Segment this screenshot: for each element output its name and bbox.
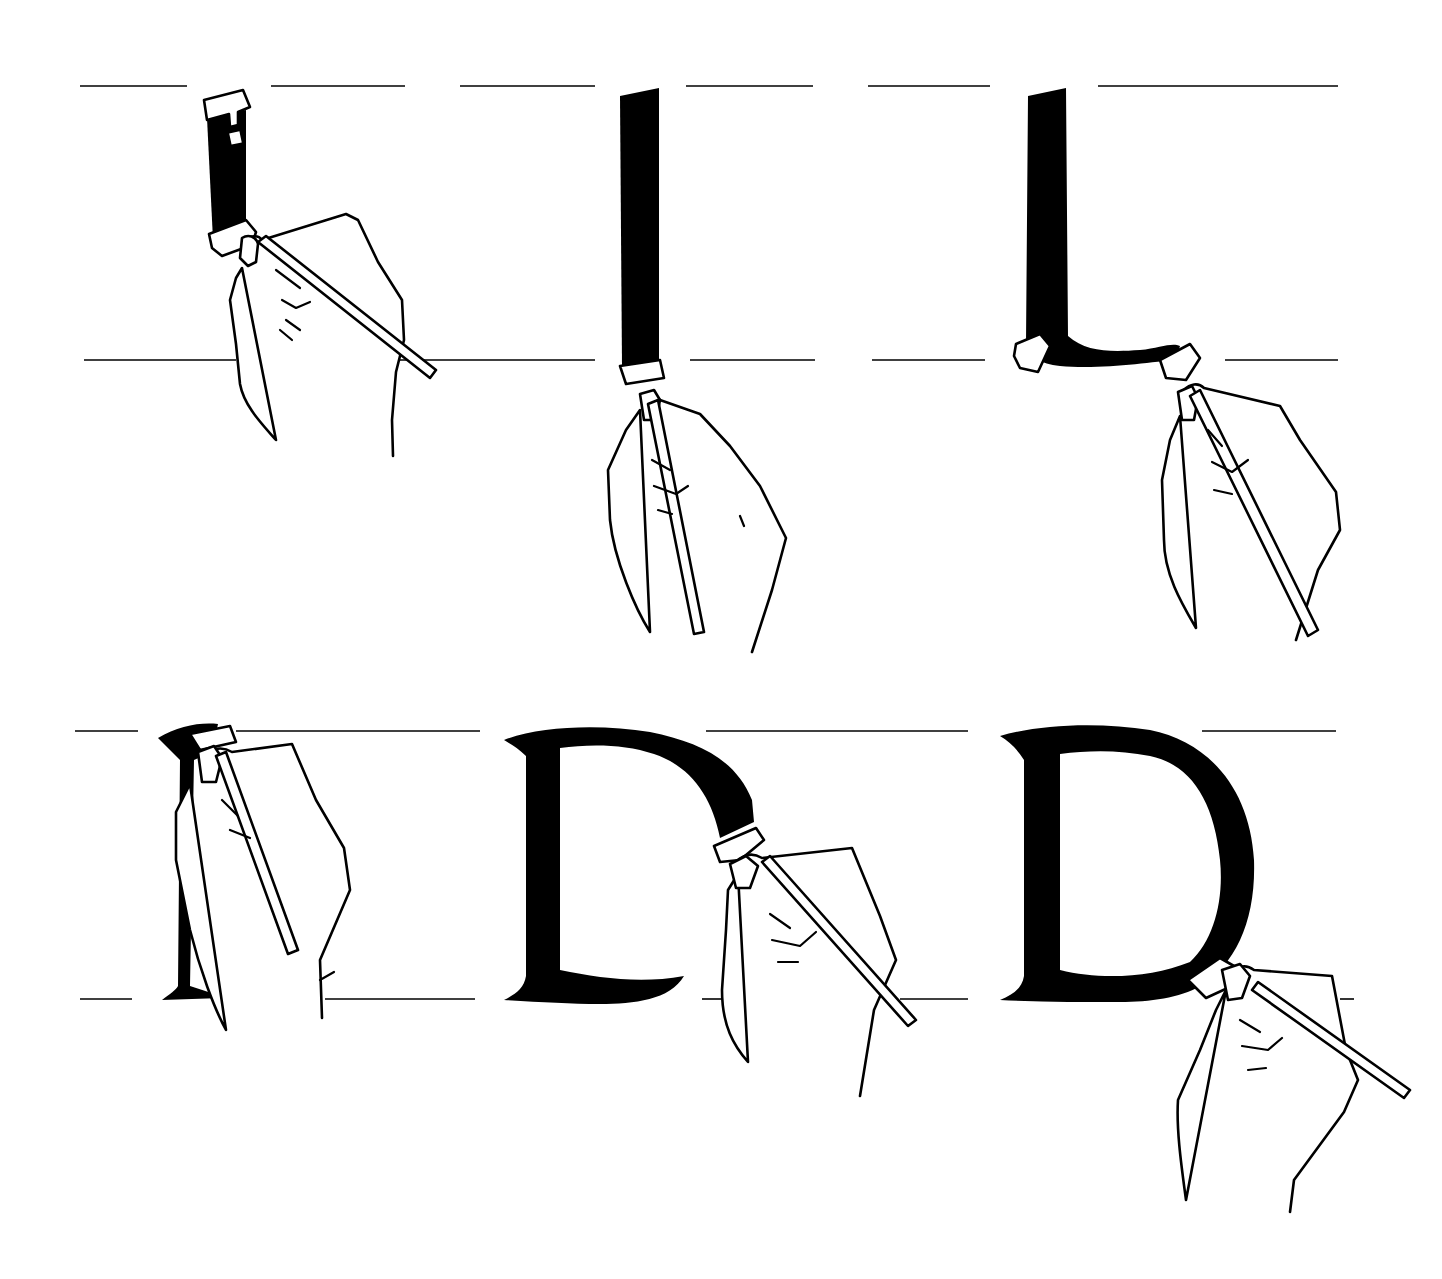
step-4: [158, 724, 350, 1030]
step-5: [504, 727, 916, 1096]
guide-lines-row-1: [80, 86, 1338, 360]
step-6: [1000, 725, 1410, 1212]
step-3: [1014, 88, 1340, 640]
calligraphy-illustration: [0, 0, 1442, 1279]
step-1: [204, 90, 436, 456]
step-2: [608, 88, 786, 652]
